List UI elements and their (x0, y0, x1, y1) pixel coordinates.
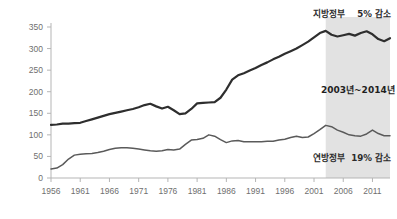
x-tick-label: 1981 (188, 186, 207, 196)
x-tick-label: 1976 (158, 186, 177, 196)
annotation-federal-gov-name: 연방정부 (313, 152, 345, 163)
y-tick-label: 50 (34, 151, 44, 161)
x-tick-label: 1996 (275, 186, 294, 196)
y-axis-ticks: 050100150200250300350 (29, 22, 51, 183)
x-tick-label: 1966 (100, 186, 119, 196)
y-tick-label: 100 (29, 130, 43, 140)
chart-container: 2003년~2014년 050100150200250300350 195619… (0, 0, 397, 219)
x-tick-label: 1991 (246, 186, 265, 196)
x-tick-label: 1961 (71, 186, 90, 196)
y-tick-label: 350 (29, 22, 43, 32)
x-axis-ticks: 1956196119661971197619811986199119962001… (42, 178, 382, 196)
line-chart: 2003년~2014년 050100150200250300350 195619… (0, 0, 397, 219)
y-tick-label: 200 (29, 87, 43, 97)
y-tick-label: 150 (29, 108, 43, 118)
x-tick-label: 2006 (334, 186, 353, 196)
x-tick-label: 1986 (217, 186, 236, 196)
x-tick-label: 1971 (129, 186, 148, 196)
x-tick-label: 2011 (363, 186, 382, 196)
y-tick-label: 250 (29, 65, 43, 75)
annotation-local-gov-name: 지방정부 (313, 8, 345, 19)
x-tick-label: 1956 (42, 186, 61, 196)
y-tick-label: 0 (38, 173, 43, 183)
annotation-local-gov-change: 5% 감소 (357, 8, 391, 19)
x-tick-label: 2001 (305, 186, 324, 196)
y-tick-label: 300 (29, 44, 43, 54)
annotation-federal-gov-change: 19% 감소 (351, 152, 391, 163)
highlight-band-label: 2003년~2014년 (321, 84, 395, 95)
